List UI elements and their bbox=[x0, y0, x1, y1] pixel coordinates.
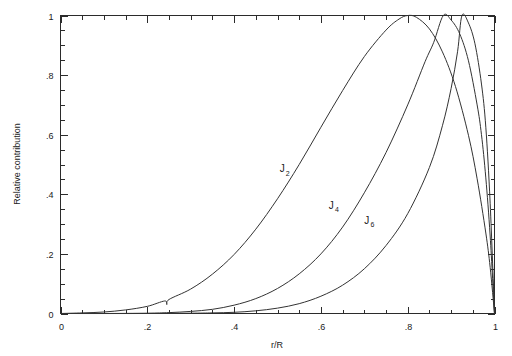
y-tick-label: .4 bbox=[46, 190, 54, 200]
curve-label-subscript: 6 bbox=[371, 221, 375, 228]
curve-label-subscript: 2 bbox=[286, 170, 290, 177]
x-tick-label: .6 bbox=[318, 322, 326, 332]
y-tick-label: 1 bbox=[48, 12, 53, 22]
y-tick-label: .2 bbox=[46, 250, 54, 260]
y-tick-label: .8 bbox=[46, 71, 54, 81]
x-tick-label: .8 bbox=[405, 322, 413, 332]
y-tick-label: 0 bbox=[48, 310, 53, 320]
y-axis-title: Relative contribution bbox=[12, 123, 22, 205]
x-tick-label: 1 bbox=[493, 322, 498, 332]
x-tick-label: .4 bbox=[231, 322, 239, 332]
curve-label-letter: J bbox=[364, 215, 369, 226]
x-axis-title: r/R bbox=[271, 340, 283, 350]
plot-background bbox=[0, 0, 512, 356]
x-tick-label: 0 bbox=[59, 322, 64, 332]
curve-label-letter: J bbox=[329, 200, 334, 211]
x-tick-label: .2 bbox=[144, 322, 152, 332]
curve-label-letter: J bbox=[280, 163, 285, 174]
curve-label-subscript: 4 bbox=[335, 206, 339, 213]
figure-container: 0.2.4.6.81 0.2.4.6.81 r/R Relative contr… bbox=[0, 0, 512, 356]
plot-svg: 0.2.4.6.81 0.2.4.6.81 r/R Relative contr… bbox=[0, 0, 512, 356]
y-tick-label: .6 bbox=[46, 131, 54, 141]
